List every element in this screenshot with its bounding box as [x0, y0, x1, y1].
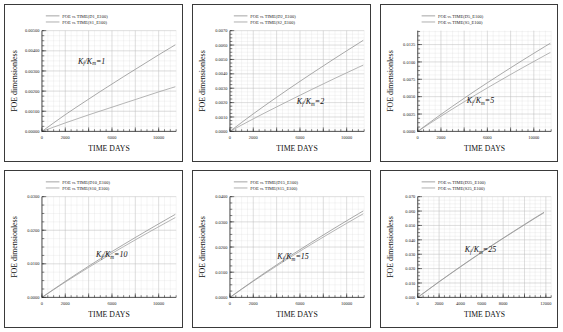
chart-panel-1: 020006000100000.000000.001000.002000.003… — [0, 0, 188, 166]
ratio-annotation: Kf/Km=5 — [466, 96, 494, 106]
plot-area: 020006000100000.00000.01000.02000.03000.… — [193, 171, 370, 327]
legend: FOE vs. TIME(D1_E100)FOE vs. TIME(S1_E10… — [46, 14, 108, 25]
y-tick-label: 0.0300 — [27, 194, 40, 199]
x-tick-label: 12000 — [540, 301, 552, 306]
y-tick-label: 0.0025 — [403, 112, 416, 117]
plot-area: 020006000100000.00000.00100.00200.00300.… — [193, 5, 370, 161]
legend: FOE vs. TIME(D5_E100)FOE vs. TIME(S5_E10… — [422, 14, 484, 25]
y-tick-label: 0.0000 — [215, 129, 228, 134]
y-tick-label: 0.0000 — [215, 295, 228, 300]
x-axis-title: TIME DAYS — [88, 144, 129, 153]
legend: FOE vs. TIME(D2_E100)FOE vs. TIME(S2_E10… — [234, 14, 296, 25]
x-tick-label: 0 — [41, 301, 44, 306]
panel-frame: 020006000100000.00000.00250.00500.00750.… — [380, 4, 558, 162]
x-axis-title: TIME DAYS — [276, 144, 317, 153]
y-tick-label: 0.0060 — [215, 43, 228, 48]
legend-label: FOE vs. TIME(D1_E100) — [62, 14, 108, 19]
y-tick-label: 0.0070 — [215, 28, 228, 33]
y-tick-label: 0.0125 — [403, 42, 416, 47]
x-tick-label: 6000 — [296, 135, 306, 140]
x-tick-label: 0 — [417, 301, 420, 306]
panel-frame: 020006000100000.00000.00100.00200.00300.… — [192, 4, 371, 162]
legend-label: FOE vs. TIME(S15_E100) — [250, 186, 297, 191]
x-tick-label: 6000 — [483, 135, 493, 140]
y-tick-label: 0.0000 — [403, 129, 416, 134]
x-tick-label: 6000 — [108, 135, 118, 140]
plot-area: 020006000100000.00000.00250.00500.00750.… — [381, 5, 557, 161]
y-tick-label: 0.070 — [405, 194, 416, 199]
chart-panel-6: 02000400060008000120000.0000.0100.0200.0… — [376, 166, 563, 332]
ratio-annotation: Kf/Km=1 — [77, 57, 105, 67]
y-tick-label: 0.040 — [405, 237, 416, 242]
chart-panel-4: 020006000100000.00000.01000.02000.0300TI… — [0, 166, 188, 332]
chart-panel-3: 020006000100000.00000.00250.00500.00750.… — [376, 0, 563, 166]
y-tick-label: 0.0100 — [403, 60, 416, 65]
y-tick-label: 0.00100 — [25, 109, 40, 114]
legend-label: FOE vs. TIME(D10_E100) — [62, 180, 110, 185]
x-tick-label: 0 — [417, 135, 420, 140]
legend-label: FOE vs. TIME(D15_E100) — [250, 180, 298, 185]
legend-label: FOE vs. TIME(S2_E100) — [250, 20, 295, 25]
x-tick-label: 2000 — [61, 301, 71, 306]
y-tick-label: 0.000 — [405, 295, 416, 300]
panel-frame: 020006000100000.00000.01000.02000.0300TI… — [4, 170, 183, 328]
x-axis-title: TIME DAYS — [88, 310, 129, 319]
y-tick-label: 0.010 — [405, 281, 416, 286]
legend-label: FOE vs. TIME(D5_E100) — [438, 14, 484, 19]
y-axis-title: FOE dimensionless — [386, 50, 395, 112]
figure-grid: 020006000100000.000000.001000.002000.003… — [0, 0, 563, 332]
legend: FOE vs. TIME(D10_E100)FOE vs. TIME(S10_E… — [46, 180, 111, 191]
x-axis-title: TIME DAYS — [464, 144, 505, 153]
legend-label: FOE vs. TIME(S1_E100) — [62, 20, 107, 25]
y-tick-label: 0.020 — [405, 266, 416, 271]
legend-label: FOE vs. TIME(S25_E100) — [438, 186, 485, 191]
y-tick-label: 0.00000 — [25, 129, 40, 134]
chart-panel-5: 020006000100000.00000.01000.02000.03000.… — [188, 166, 376, 332]
legend-label: FOE vs. TIME(D25_E100) — [438, 180, 486, 185]
panel-frame: 020006000100000.00000.01000.02000.03000.… — [192, 170, 371, 328]
y-tick-label: 0.0030 — [215, 86, 228, 91]
legend-label: FOE vs. TIME(S10_E100) — [62, 186, 109, 191]
legend-label: FOE vs. TIME(D2_E100) — [250, 14, 296, 19]
x-axis-title: TIME DAYS — [464, 310, 505, 319]
x-tick-label: 10000 — [528, 135, 540, 140]
y-tick-label: 0.0200 — [215, 245, 228, 250]
y-tick-label: 0.0100 — [27, 261, 40, 266]
x-tick-label: 6000 — [108, 301, 118, 306]
y-tick-label: 0.0400 — [215, 194, 228, 199]
plot-area: 02000400060008000120000.0000.0100.0200.0… — [381, 171, 557, 327]
x-tick-label: 10000 — [153, 301, 165, 306]
ratio-annotation: Kf/Km=2 — [296, 97, 324, 107]
panel-frame: 02000400060008000120000.0000.0100.0200.0… — [380, 170, 558, 328]
x-tick-label: 8000 — [499, 301, 509, 306]
y-tick-label: 0.00200 — [25, 89, 40, 94]
y-tick-label: 0.060 — [405, 209, 416, 214]
x-tick-label: 2000 — [435, 301, 445, 306]
x-axis-title: TIME DAYS — [276, 310, 317, 319]
plot-area: 020006000100000.00000.01000.02000.0300TI… — [5, 171, 182, 327]
y-tick-label: 0.0050 — [403, 94, 416, 99]
x-tick-label: 2000 — [61, 135, 71, 140]
y-tick-label: 0.0020 — [215, 100, 228, 105]
x-tick-label: 2000 — [249, 301, 259, 306]
y-tick-label: 0.0100 — [215, 270, 228, 275]
x-tick-label: 6000 — [477, 301, 487, 306]
x-tick-label: 0 — [41, 135, 44, 140]
y-tick-label: 0.030 — [405, 252, 416, 257]
legend: FOE vs. TIME(D25_E100)FOE vs. TIME(S25_E… — [422, 180, 486, 191]
y-tick-label: 0.00300 — [25, 69, 40, 74]
minor-gridlines — [42, 31, 176, 132]
y-axis-title: FOE dimensionless — [10, 50, 19, 112]
x-tick-label: 2000 — [249, 135, 259, 140]
legend-label: FOE vs. TIME(S5_E100) — [438, 20, 483, 25]
y-axis-title: FOE dimensionless — [198, 216, 207, 278]
x-tick-label: 6000 — [296, 301, 306, 306]
y-axis-title: FOE dimensionless — [386, 216, 395, 278]
plot-area: 020006000100000.000000.001000.002000.003… — [5, 5, 182, 161]
x-tick-label: 0 — [229, 301, 232, 306]
y-tick-label: 0.0075 — [403, 77, 416, 82]
y-tick-label: 0.050 — [405, 223, 416, 228]
y-axis-title: FOE dimensionless — [198, 50, 207, 112]
x-tick-label: 0 — [229, 135, 232, 140]
x-tick-label: 10000 — [341, 135, 353, 140]
